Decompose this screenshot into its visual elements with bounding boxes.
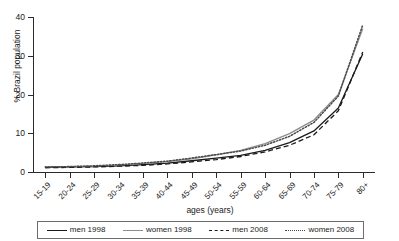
x-axis-tick — [363, 173, 364, 178]
series-line-women-1998 — [45, 29, 363, 167]
legend-item-label: men 1998 — [70, 226, 106, 234]
x-axis-tick — [45, 173, 46, 178]
legend-item[interactable]: men 2008 — [209, 226, 268, 234]
x-axis-tick — [167, 173, 168, 178]
x-axis-tick — [70, 173, 71, 178]
legend-item[interactable]: women 2008 — [285, 226, 354, 234]
legend-item-label: men 2008 — [232, 226, 268, 234]
legend-item-label: women 2008 — [308, 226, 354, 234]
series-line-women-2008 — [45, 25, 363, 167]
x-axis-tick — [94, 173, 95, 178]
x-axis-tick — [192, 173, 193, 178]
series-lines — [33, 17, 375, 172]
x-axis-spine — [33, 172, 375, 173]
x-axis-tick — [265, 173, 266, 178]
x-axis-tick — [143, 173, 144, 178]
x-axis-title: ages (years) — [150, 205, 270, 215]
x-axis-tick — [290, 173, 291, 178]
x-axis-tick — [314, 173, 315, 178]
x-axis-tick — [241, 173, 242, 178]
legend-item-label: women 1998 — [146, 226, 192, 234]
chart-legend: men 1998women 1998men 2008women 2008 — [37, 221, 364, 239]
series-line-men-2008 — [45, 52, 363, 168]
x-axis-tick — [338, 173, 339, 178]
series-line-men-1998 — [45, 54, 363, 168]
legend-item[interactable]: women 1998 — [123, 226, 192, 234]
x-axis-tick — [216, 173, 217, 178]
y-axis-title: % Brazil population — [12, 11, 22, 121]
y-axis-tick-label: 0 — [0, 168, 25, 177]
line-solid-gray-icon — [123, 227, 143, 234]
plot-area — [33, 17, 375, 172]
y-axis-tick-label: 10 — [0, 129, 25, 138]
x-axis-tick — [119, 173, 120, 178]
y-axis-tick — [28, 172, 33, 173]
legend-item[interactable]: men 1998 — [47, 226, 106, 234]
line-dotted-icon — [285, 227, 305, 234]
line-dashed-icon — [209, 227, 229, 234]
chart-figure: 010203040 15-1920-2425-2930-3435-3940-44… — [0, 0, 399, 241]
line-solid-dark-icon — [47, 227, 67, 234]
